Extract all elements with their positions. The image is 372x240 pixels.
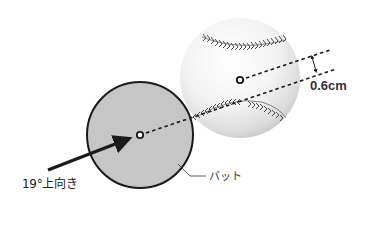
- bat-label: バット: [209, 171, 242, 182]
- ball-center-marker: [237, 77, 243, 83]
- swing-angle-label: 19°上向き: [22, 178, 77, 190]
- offset-dimension-arrow: [312, 57, 316, 71]
- offset-label: 0.6cm: [310, 79, 347, 92]
- bat-center-marker: [137, 132, 143, 138]
